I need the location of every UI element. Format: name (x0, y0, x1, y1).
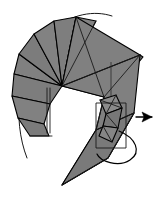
origami-diagram-canvas (0, 0, 163, 204)
fold-diagram-svg (0, 0, 163, 204)
